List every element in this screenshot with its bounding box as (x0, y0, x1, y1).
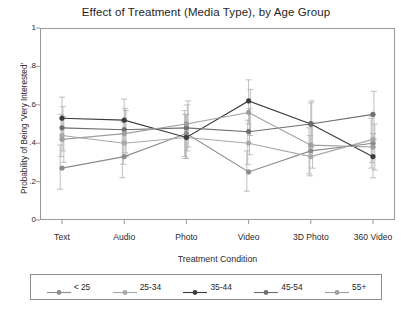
legend-marker-icon (324, 283, 350, 292)
data-point (246, 129, 251, 134)
legend-item[interactable]: < 25 (46, 282, 91, 292)
legend-item[interactable]: 45-54 (253, 282, 302, 292)
legend-label: 55+ (352, 282, 366, 292)
data-point (122, 154, 127, 159)
x-tick-label: Photo (175, 232, 197, 242)
x-tick-label: Text (54, 232, 70, 242)
data-point (308, 154, 313, 159)
data-point (308, 148, 313, 153)
data-point (308, 122, 313, 127)
data-point (122, 131, 127, 136)
x-tick-label: 360 Video (354, 232, 393, 242)
x-axis-title: Treatment Condition (40, 254, 395, 264)
series-45-54 (60, 112, 376, 134)
data-point (371, 112, 376, 117)
data-point (371, 137, 376, 142)
legend-marker-icon (182, 283, 208, 292)
legend-item[interactable]: 35-44 (182, 282, 231, 292)
data-point (60, 125, 65, 130)
data-point (184, 122, 189, 127)
chart-legend: < 2525-3435-4445-5455+ (30, 274, 382, 300)
data-point (184, 135, 189, 140)
data-point (246, 110, 251, 115)
legend-label: 35-44 (210, 282, 231, 292)
data-point (371, 154, 376, 159)
legend-label: < 25 (74, 282, 91, 292)
data-point (246, 99, 251, 104)
x-tick-label: Audio (113, 232, 135, 242)
x-axis-ticks (62, 220, 373, 224)
y-axis-ticks (36, 28, 40, 220)
legend-marker-icon (46, 283, 72, 292)
legend-items: < 2525-3435-4445-5455+ (31, 275, 381, 299)
data-point (122, 118, 127, 123)
chart-figure: Effect of Treatment (Media Type), by Age… (0, 0, 412, 311)
data-point (60, 116, 65, 121)
legend-marker-icon (112, 283, 138, 292)
data-point (246, 170, 251, 175)
x-tick-label: Video (238, 232, 260, 242)
x-tick-label: 3D Photo (293, 232, 329, 242)
data-point (60, 137, 65, 142)
data-point (371, 145, 376, 150)
legend-item[interactable]: 25-34 (112, 282, 161, 292)
data-point (246, 141, 251, 146)
data-point (122, 141, 127, 146)
chart-canvas (0, 0, 412, 311)
legend-marker-icon (253, 283, 279, 292)
legend-label: 45-54 (281, 282, 302, 292)
data-point (60, 166, 65, 171)
series--25 (60, 131, 376, 174)
data-point (308, 143, 313, 148)
legend-label: 25-34 (140, 282, 161, 292)
legend-item[interactable]: 55+ (324, 282, 366, 292)
